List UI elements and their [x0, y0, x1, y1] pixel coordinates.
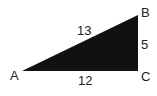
side-label-bc: 5: [141, 37, 148, 52]
vertex-label-a: A: [10, 68, 19, 83]
vertex-label-c: C: [141, 69, 150, 84]
side-label-ab: 13: [77, 23, 91, 38]
side-label-ac: 12: [78, 73, 92, 88]
vertex-label-b: B: [141, 5, 150, 20]
triangle-diagram: A B C 13 5 12: [0, 0, 157, 96]
